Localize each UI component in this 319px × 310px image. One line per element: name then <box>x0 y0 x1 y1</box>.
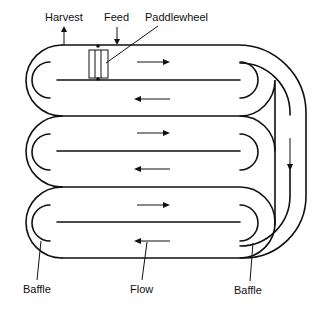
right-baffle-1 <box>240 62 258 98</box>
baffle-left-leader <box>37 241 41 280</box>
arrow-right-3 <box>137 130 170 136</box>
harvest-arrow-icon <box>61 26 67 45</box>
flow-label: Flow <box>130 283 153 295</box>
arrow-left-2 <box>134 96 170 102</box>
arrow-right-1 <box>137 59 170 65</box>
wall-1-lower <box>240 80 275 151</box>
left-baffle-2 <box>32 134 50 170</box>
right-baffle-2 <box>240 134 258 170</box>
left-baffle-3 <box>32 205 50 241</box>
baffle-left-label: Baffle <box>23 283 51 295</box>
baffle-right-leader <box>250 243 253 281</box>
arrow-right-5 <box>137 202 170 208</box>
left-baffle-1 <box>32 62 50 98</box>
paddlewheel-label: Paddlewheel <box>145 11 208 23</box>
arrow-left-4 <box>134 166 170 172</box>
outer-right-baffle-bottom <box>240 170 290 246</box>
flow-leader <box>142 242 147 280</box>
harvest-label: Harvest <box>45 11 83 23</box>
baffle-right-label: Baffle <box>234 284 262 296</box>
arrow-down-return <box>287 138 293 171</box>
outer-right-baffle-top <box>240 63 290 115</box>
feed-label: Feed <box>104 11 129 23</box>
feed-arrow-icon <box>114 27 120 45</box>
paddlewheel <box>89 44 108 81</box>
arrow-left-6 <box>134 238 170 244</box>
right-baffle-3 <box>240 205 258 241</box>
raceway-diagram: Harvest Feed Paddlewheel Baffle Flow Baf… <box>0 0 319 310</box>
